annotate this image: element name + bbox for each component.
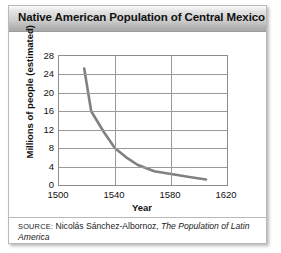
figure-container: Native American Population of Central Me… — [8, 5, 267, 244]
x-axis-ticks: 1500154015801620 — [58, 189, 226, 201]
y-tick-label: 28 — [24, 51, 54, 60]
x-tick-label: 1580 — [150, 189, 190, 200]
y-tick-label: 8 — [24, 143, 54, 152]
y-tick-label: 20 — [24, 88, 54, 97]
x-axis-label: Year — [58, 202, 226, 213]
horizontal-gridline — [59, 93, 227, 94]
y-tick-label: 24 — [24, 69, 54, 78]
plot-area — [58, 55, 228, 186]
page-title: Native American Population of Central Me… — [18, 11, 265, 23]
source-label: SOURCE: — [18, 222, 53, 231]
y-tick-label: 4 — [24, 162, 54, 171]
vertical-gridline — [171, 56, 172, 185]
x-tick-label: 1620 — [206, 189, 246, 200]
y-tick-label: 12 — [24, 125, 54, 134]
data-series-polyline — [84, 68, 206, 179]
horizontal-gridline — [59, 148, 227, 149]
vertical-gridline — [115, 56, 116, 185]
y-tick-label: 0 — [24, 180, 54, 189]
source-author: Nicolás Sánchez-Albornoz, — [55, 221, 158, 231]
x-tick-label: 1500 — [38, 189, 78, 200]
horizontal-gridline — [59, 167, 227, 168]
source-divider — [9, 217, 266, 218]
chart-area: Millions of people (estimated) 048121620… — [9, 32, 268, 202]
y-tick-label: 16 — [24, 106, 54, 115]
source-caption: SOURCE: Nicolás Sánchez-Albornoz, The Po… — [18, 221, 258, 243]
horizontal-gridline — [59, 74, 227, 75]
x-tick-label: 1540 — [94, 189, 134, 200]
y-axis-ticks: 0481216202428 — [20, 55, 54, 184]
title-bar: Native American Population of Central Me… — [9, 6, 266, 32]
horizontal-gridline — [59, 130, 227, 131]
horizontal-gridline — [59, 111, 227, 112]
